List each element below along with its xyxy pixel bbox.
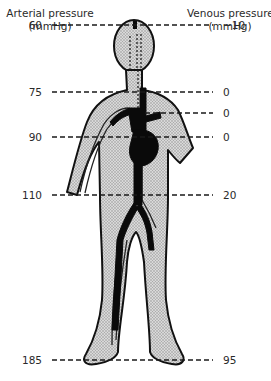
venous-label-feet: 95 [223,354,236,366]
venous-label-head: −10 [223,19,245,31]
arterial-label-neck: 75 [4,86,42,98]
venous-label-abdomen: 20 [223,189,236,201]
venous-label-neck: 0 [223,86,230,98]
venous-label-heart: 0 [223,131,230,143]
descending-aorta [134,160,142,205]
body-silhouette [67,20,193,364]
venous-label-clavicle: 0 [223,107,230,119]
arterial-label-heart: 90 [4,131,42,143]
arterial-label-abdomen: 110 [4,189,42,201]
carotid [140,88,146,108]
arterial-label-head: 60 [4,19,42,31]
arterial-label-feet: 185 [4,354,42,366]
